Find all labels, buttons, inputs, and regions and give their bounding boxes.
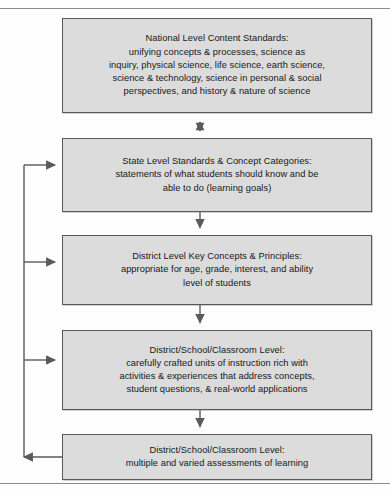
node-label: District Level Key Concepts & Principles… bbox=[121, 250, 313, 290]
diagram-page: National Level Content Standards: unifyi… bbox=[0, 0, 390, 491]
node-state-level-standards: State Level Standards & Concept Categori… bbox=[62, 138, 372, 212]
node-district-school-classroom-instruction: District/School/Classroom Level: careful… bbox=[62, 330, 372, 410]
node-label: State Level Standards & Concept Categori… bbox=[116, 155, 319, 195]
node-district-school-classroom-assessment: District/School/Classroom Level: multipl… bbox=[62, 434, 372, 480]
node-label: District/School/Classroom Level: careful… bbox=[119, 344, 314, 397]
node-label: National Level Content Standards: unifyi… bbox=[109, 32, 325, 98]
node-district-level-key-concepts: District Level Key Concepts & Principles… bbox=[62, 235, 372, 305]
node-label: District/School/Classroom Level: multipl… bbox=[126, 444, 309, 470]
node-national-level-content-standards: National Level Content Standards: unifyi… bbox=[62, 18, 372, 113]
